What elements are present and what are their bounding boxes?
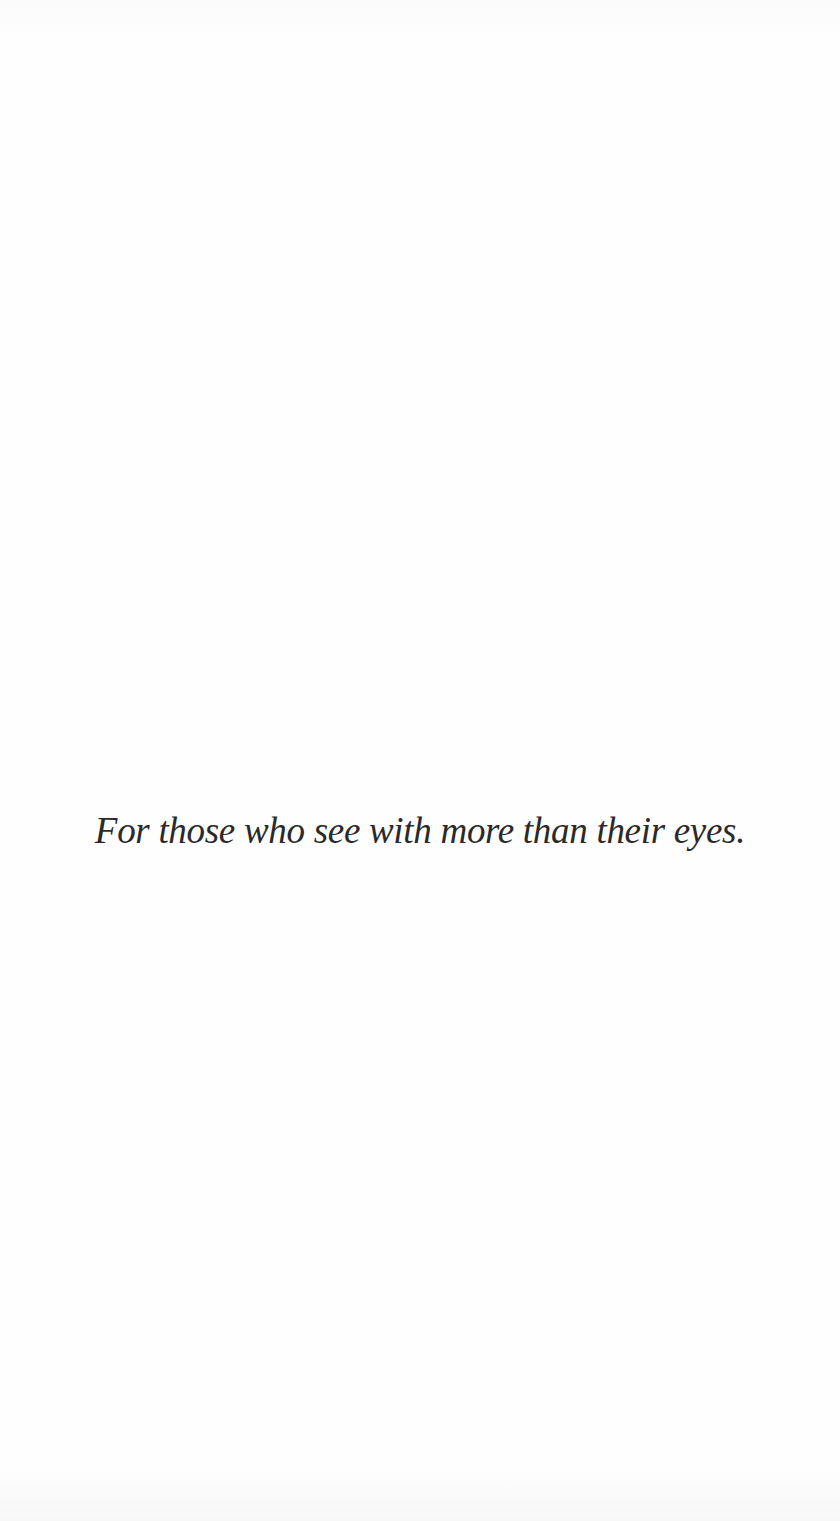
book-page: For those who see with more than their e… xyxy=(0,0,840,1521)
dedication-text: For those who see with more than their e… xyxy=(0,807,840,855)
